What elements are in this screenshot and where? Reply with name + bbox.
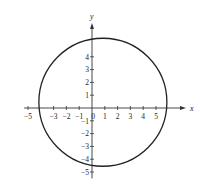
circle-curve bbox=[39, 38, 167, 166]
y-tick-label: 1 bbox=[85, 91, 89, 100]
x-axis-arrow-icon bbox=[180, 106, 186, 110]
x-tick-label: −2 bbox=[62, 112, 70, 121]
circle-series bbox=[39, 38, 167, 166]
y-axis-label: y bbox=[89, 12, 94, 21]
circle-chart: xy −5−3−2−1012345−5−4−3−2−11234 bbox=[0, 0, 200, 193]
y-tick-label: −3 bbox=[81, 142, 89, 151]
x-tick-label: 1 bbox=[103, 112, 107, 121]
x-tick-label: 4 bbox=[141, 112, 145, 121]
y-tick-label: 3 bbox=[85, 65, 89, 74]
y-axis-arrow-icon bbox=[90, 23, 94, 29]
x-tick-label: 3 bbox=[129, 112, 133, 121]
x-axis-label: x bbox=[189, 104, 194, 113]
y-tick-label: 2 bbox=[85, 78, 89, 87]
y-tick-label: −2 bbox=[81, 129, 89, 138]
x-tick-label: −3 bbox=[50, 112, 58, 121]
tick-labels: −5−3−2−1012345−5−4−3−2−11234 bbox=[24, 53, 158, 177]
x-tick-label: 0 bbox=[91, 112, 95, 121]
x-tick-label: 2 bbox=[116, 112, 120, 121]
y-tick-label: −5 bbox=[81, 168, 89, 177]
x-tick-label: −5 bbox=[24, 112, 32, 121]
x-tick-label: 5 bbox=[154, 112, 158, 121]
axes: xy bbox=[24, 12, 194, 178]
y-tick-label: −1 bbox=[81, 117, 89, 126]
y-tick-label: 4 bbox=[85, 53, 89, 62]
